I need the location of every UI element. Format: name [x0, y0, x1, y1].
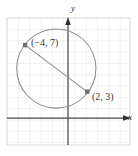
y-axis-label: y [71, 4, 75, 13]
point-marker-a [23, 43, 27, 47]
x-axis-label: x [128, 113, 132, 122]
point-label-negative4-7: (−4, 7) [31, 38, 58, 48]
coordinate-plane-figure: y x (−4, 7) (2, 3) [0, 0, 138, 156]
point-marker-b [85, 90, 89, 94]
plot-canvas [0, 0, 138, 156]
point-label-2-3: (2, 3) [92, 92, 114, 102]
